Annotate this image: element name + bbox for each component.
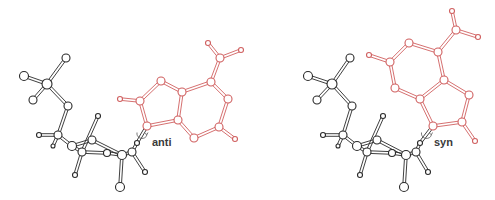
atom bbox=[465, 91, 473, 99]
bond-line bbox=[419, 100, 432, 127]
bond-line bbox=[182, 83, 211, 93]
atom bbox=[452, 26, 460, 34]
atom bbox=[73, 173, 78, 178]
atom bbox=[128, 148, 136, 156]
atom bbox=[363, 148, 371, 156]
syn-label: syn bbox=[434, 136, 453, 148]
atom bbox=[143, 122, 151, 130]
atom bbox=[386, 58, 394, 66]
atom bbox=[116, 183, 125, 192]
atom bbox=[207, 78, 215, 86]
atom bbox=[174, 116, 182, 124]
atom bbox=[339, 131, 347, 139]
atom bbox=[42, 79, 52, 89]
atom bbox=[215, 123, 223, 131]
atom bbox=[358, 173, 363, 178]
atom bbox=[239, 48, 244, 53]
bond-line bbox=[421, 98, 434, 125]
atom bbox=[88, 136, 96, 144]
atom bbox=[367, 53, 372, 58]
atom bbox=[416, 95, 424, 103]
atom bbox=[313, 96, 321, 104]
atom bbox=[304, 72, 313, 81]
atom bbox=[389, 150, 396, 157]
atom bbox=[233, 137, 238, 142]
atom bbox=[434, 48, 442, 56]
bond-line bbox=[83, 117, 99, 153]
bond-line bbox=[368, 117, 384, 153]
atom bbox=[224, 95, 232, 103]
atom bbox=[458, 118, 466, 126]
bond-line bbox=[57, 106, 67, 135]
atom bbox=[29, 96, 37, 104]
anti-label: anti bbox=[152, 136, 172, 148]
bond-line bbox=[182, 81, 211, 91]
bond-line bbox=[445, 79, 470, 94]
atom bbox=[37, 133, 42, 138]
atom bbox=[54, 131, 62, 139]
atom bbox=[216, 54, 224, 62]
atom bbox=[136, 97, 144, 105]
atom bbox=[405, 39, 413, 47]
bond-line bbox=[419, 79, 443, 98]
atom bbox=[373, 136, 381, 144]
atom bbox=[51, 144, 55, 148]
rotation-arrowhead bbox=[145, 133, 148, 135]
atom bbox=[143, 170, 148, 175]
atom bbox=[157, 77, 165, 85]
atom bbox=[135, 141, 140, 146]
atom bbox=[391, 84, 399, 92]
atom bbox=[400, 183, 409, 192]
atom bbox=[190, 134, 198, 142]
bond-line bbox=[147, 121, 178, 127]
atom bbox=[118, 151, 127, 160]
atom bbox=[78, 148, 86, 156]
atom bbox=[353, 142, 362, 151]
atom bbox=[64, 102, 72, 110]
atom bbox=[476, 35, 481, 40]
bond-line bbox=[81, 115, 97, 151]
atom bbox=[418, 141, 423, 146]
atom bbox=[68, 142, 77, 151]
atom bbox=[118, 97, 123, 102]
atom bbox=[381, 114, 386, 119]
atom bbox=[440, 76, 448, 84]
atom bbox=[450, 9, 455, 14]
atom bbox=[336, 144, 340, 148]
bond-line bbox=[421, 81, 445, 100]
atom bbox=[321, 133, 326, 138]
bond-line bbox=[59, 106, 69, 135]
bond-line bbox=[147, 119, 178, 125]
molecule-syn bbox=[304, 9, 481, 192]
atom bbox=[206, 41, 211, 46]
atom bbox=[426, 170, 431, 175]
atom bbox=[348, 102, 356, 110]
atom bbox=[473, 139, 478, 144]
bond-line bbox=[443, 81, 468, 96]
atom bbox=[104, 150, 111, 157]
bond-line bbox=[366, 115, 382, 151]
atom bbox=[62, 54, 70, 62]
atom bbox=[20, 72, 29, 81]
atom bbox=[402, 151, 411, 160]
atom bbox=[327, 79, 337, 89]
molecular-diagram bbox=[0, 0, 495, 200]
atom bbox=[96, 114, 101, 119]
atom bbox=[346, 54, 354, 62]
atom bbox=[412, 148, 420, 156]
molecule-anti bbox=[20, 41, 244, 192]
atom bbox=[178, 88, 186, 96]
atom bbox=[429, 122, 437, 130]
